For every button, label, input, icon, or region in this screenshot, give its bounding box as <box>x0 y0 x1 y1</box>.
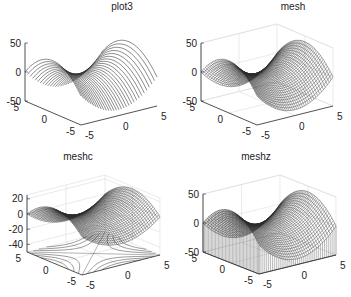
axes-meshc: meshc-40-2002050-5-505 <box>9 151 170 291</box>
svg-text:0: 0 <box>193 218 199 229</box>
svg-text:0: 0 <box>125 270 131 281</box>
x-axis <box>82 255 160 275</box>
svg-text:-5: -5 <box>86 280 95 291</box>
svg-text:0: 0 <box>299 121 305 132</box>
tick-labels: -5005050-5-505 <box>183 38 343 142</box>
svg-text:-20: -20 <box>9 224 24 235</box>
svg-text:-5: -5 <box>263 279 272 290</box>
svg-text:5: 5 <box>13 102 19 113</box>
y-axis <box>25 101 81 125</box>
x-axis <box>257 106 333 125</box>
svg-text:0: 0 <box>123 121 129 132</box>
subplot-plot3[interactable]: plot3-5005050-5-505 <box>0 0 176 149</box>
svg-text:50: 50 <box>188 189 200 200</box>
svg-text:5: 5 <box>191 253 197 264</box>
svg-text:5: 5 <box>340 260 346 271</box>
svg-text:5: 5 <box>161 111 167 122</box>
surface-meshc <box>27 187 160 245</box>
y-axis <box>27 252 82 275</box>
subplot-meshc[interactable]: meshc-40-2002050-5-505 <box>0 148 176 297</box>
svg-text:-5: -5 <box>261 130 270 141</box>
surface-mesh <box>201 40 333 110</box>
svg-text:-5: -5 <box>66 126 75 137</box>
plot-title: meshc <box>63 151 92 162</box>
plot-title: mesh <box>281 1 305 12</box>
tick-labels: -5005050-5-505 <box>7 38 167 142</box>
svg-text:5: 5 <box>189 102 195 113</box>
axis-lines <box>25 43 157 125</box>
svg-text:0: 0 <box>41 114 47 125</box>
svg-text:-40: -40 <box>9 239 24 250</box>
surface-plot3 <box>25 40 157 111</box>
svg-text:-5: -5 <box>242 126 251 137</box>
svg-text:20: 20 <box>12 193 24 204</box>
svg-text:0: 0 <box>219 264 225 275</box>
svg-text:5: 5 <box>337 111 343 122</box>
figure-window: plot3-5005050-5-505 mesh-5005050-5-505 m… <box>0 0 351 297</box>
svg-text:5: 5 <box>164 260 170 271</box>
svg-text:50: 50 <box>10 38 22 49</box>
subplot-mesh[interactable]: mesh-5005050-5-505 <box>176 0 351 149</box>
axes-plot3: plot3-5005050-5-505 <box>7 1 167 141</box>
svg-text:0: 0 <box>302 270 308 281</box>
svg-text:-5: -5 <box>85 130 94 141</box>
svg-text:0: 0 <box>43 265 49 276</box>
axes-mesh: mesh-5005050-5-505 <box>183 1 343 141</box>
svg-text:5: 5 <box>15 253 21 264</box>
surface-meshz <box>203 191 336 275</box>
subplot-meshz[interactable]: meshz-5005050-5-505 <box>176 148 351 297</box>
svg-text:-5: -5 <box>244 275 253 286</box>
axes-meshz: meshz-5005050-5-505 <box>185 151 346 290</box>
svg-text:0: 0 <box>17 209 23 220</box>
svg-text:50: 50 <box>186 38 198 49</box>
svg-text:0: 0 <box>15 67 21 78</box>
svg-text:0: 0 <box>217 114 223 125</box>
svg-text:0: 0 <box>191 67 197 78</box>
plot-title: plot3 <box>111 1 133 12</box>
svg-text:-5: -5 <box>67 276 76 287</box>
x-axis <box>81 106 157 125</box>
plot-title: meshz <box>241 151 270 162</box>
y-axis <box>201 101 257 125</box>
